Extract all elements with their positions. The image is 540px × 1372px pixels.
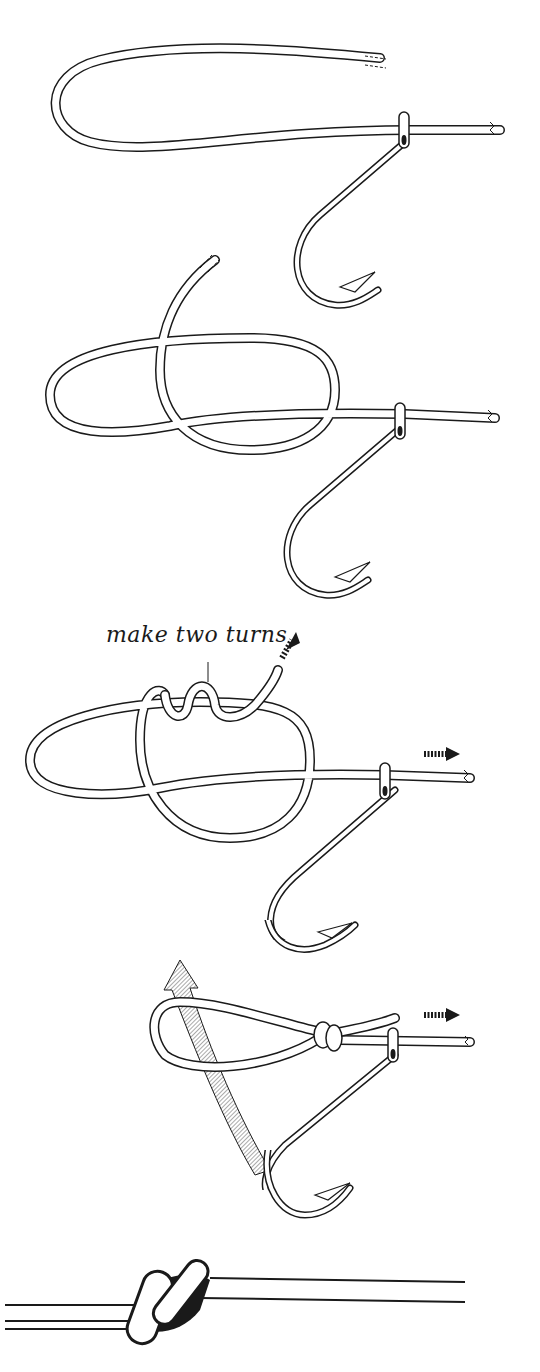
loop: [154, 1002, 320, 1067]
finished-knot: [123, 1256, 213, 1348]
hook-eye: [395, 403, 405, 439]
finished-knot-drawing: [0, 1250, 540, 1372]
hook-icon: [287, 428, 400, 595]
step-4-hook-point: [0, 1150, 540, 1220]
step-3-hook-point: [0, 920, 540, 960]
step-2-drawing: [0, 250, 540, 600]
knot: [314, 1022, 342, 1051]
hook-point-icon: [0, 920, 540, 960]
hook-eye: [388, 1028, 398, 1062]
make-two-turns-label: make two turns: [106, 622, 287, 647]
tag-lines: [5, 1305, 135, 1329]
line-loop: [50, 260, 495, 450]
pull-arrow-right-icon: [424, 1008, 460, 1022]
step-5-figure: [0, 1250, 540, 1372]
pull-arrow-right-icon: [424, 747, 460, 761]
standing-line: [200, 1278, 465, 1302]
step-3-figure: make two turns: [0, 610, 540, 940]
hook-eye: [380, 763, 390, 799]
line: [340, 1018, 470, 1042]
hook-point-icon: [0, 1150, 540, 1220]
step-2-figure: [0, 250, 540, 600]
hook-eye: [399, 112, 409, 148]
step-3-drawing: [0, 610, 540, 940]
line-loop: [56, 48, 500, 147]
